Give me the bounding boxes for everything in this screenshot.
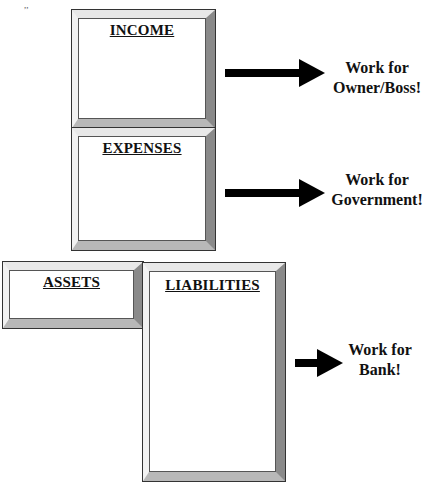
label-line-2: Bank! — [340, 360, 420, 380]
label-line-1: Work for — [320, 170, 434, 190]
assets-title: ASSETS — [9, 274, 134, 291]
label-line-1: Work for — [340, 340, 420, 360]
income-box: INCOME — [72, 10, 215, 128]
government-label: Work for Government! — [320, 170, 434, 210]
income-title: INCOME — [78, 22, 206, 39]
page-fragment-text: ,, — [24, 0, 29, 10]
expenses-title: EXPENSES — [78, 140, 206, 157]
arrow-right-icon — [225, 178, 325, 208]
label-line-2: Government! — [320, 190, 434, 210]
label-line-2: Owner/Boss! — [320, 78, 434, 98]
liabilities-title: LIABILITIES — [149, 277, 276, 294]
label-line-1: Work for — [320, 58, 434, 78]
liabilities-box: LIABILITIES — [143, 263, 285, 481]
assets-box: ASSETS — [3, 262, 143, 328]
arrow-right-icon — [295, 348, 345, 378]
owner-boss-label: Work for Owner/Boss! — [320, 58, 434, 98]
arrow-right-icon — [225, 58, 325, 88]
expenses-box: EXPENSES — [72, 128, 215, 250]
bank-label: Work for Bank! — [340, 340, 420, 380]
